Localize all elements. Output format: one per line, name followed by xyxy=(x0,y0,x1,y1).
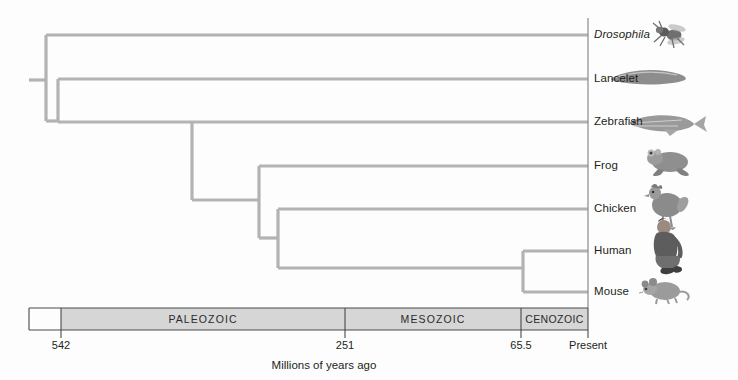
tree-branches xyxy=(29,35,588,292)
taxon-label-chicken: Chicken xyxy=(594,203,636,215)
era-label-mesozoic: MESOZOIC xyxy=(345,314,521,325)
human-icon xyxy=(654,218,683,274)
taxon-label-human: Human xyxy=(594,245,632,257)
axis-tick-label-65-5: 65.5 xyxy=(510,340,531,351)
frog-icon xyxy=(647,149,689,176)
taxon-label-zebrafish: Zebrafish xyxy=(594,116,643,128)
phylogenetic-tree-figure: Drosophila Lancelet Zebrafish Frog Chick… xyxy=(0,0,738,380)
axis-tick-label-251: 251 xyxy=(336,340,354,351)
axis-tick-label-present: Present xyxy=(569,340,607,351)
organism-illustrations xyxy=(611,21,707,304)
taxon-label-mouse: Mouse xyxy=(594,286,629,298)
taxon-label-lancelet: Lancelet xyxy=(594,73,638,85)
axis-tick-label-542: 542 xyxy=(52,340,70,351)
era-label-paleozoic: PALEOZOIC xyxy=(61,314,345,325)
fruit-fly-icon xyxy=(653,21,687,48)
axis-title: Millions of years ago xyxy=(272,360,377,372)
era-label-cenozoic: CENOZOIC xyxy=(521,314,588,325)
taxon-label-drosophila: Drosophila xyxy=(594,29,650,41)
taxon-label-frog: Frog xyxy=(594,160,618,172)
mouse-icon xyxy=(639,278,689,304)
